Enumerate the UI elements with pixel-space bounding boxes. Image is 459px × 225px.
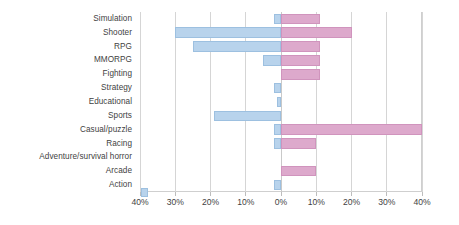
category-label: Sports (0, 111, 132, 121)
tick-mark (422, 192, 423, 196)
tick-mark (245, 192, 246, 196)
bar-right-mmorpg (281, 55, 320, 66)
bar-row (140, 26, 422, 40)
category-axis: SimulationShooterRPGMMORPGFightingStrate… (0, 12, 136, 192)
bar-right-fighting (281, 69, 320, 80)
tick-label: 10% (226, 197, 266, 208)
plot-area (140, 12, 422, 192)
bar-left-simulation (274, 14, 281, 25)
category-label: Racing (0, 139, 132, 149)
bar-row (140, 12, 422, 26)
bar-row (140, 109, 422, 123)
tick-label: 20% (191, 197, 231, 208)
x-axis: 40%30%20%10%0%10%20%30%40% (140, 192, 422, 214)
bar-left-casual-puzzle (274, 124, 281, 135)
tick-label: 40% (402, 197, 442, 208)
category-label: RPG (0, 42, 132, 52)
category-label: Arcade (0, 166, 132, 176)
bar-row (140, 67, 422, 81)
bar-row (140, 123, 422, 137)
bar-right-rpg (281, 41, 320, 52)
bar-left-racing (274, 138, 281, 149)
zero-axis-marker (141, 188, 148, 197)
category-label: Action (0, 180, 132, 190)
bar-row (140, 95, 422, 109)
bar-row (140, 54, 422, 68)
tick-label: 30% (367, 197, 407, 208)
category-label: Educational (0, 97, 132, 107)
bar-left-sports (214, 111, 281, 122)
bar-row (140, 40, 422, 54)
tick-mark (175, 192, 176, 196)
tick-label: 40% (120, 197, 160, 208)
bar-right-arcade (281, 166, 316, 177)
category-label: Adventure/survival horror (0, 152, 132, 162)
tick-mark (386, 192, 387, 196)
bar-row (140, 81, 422, 95)
bar-left-strategy (274, 83, 281, 94)
bar-row (140, 178, 422, 192)
bar-left-educational (277, 97, 281, 108)
category-label: Strategy (0, 83, 132, 93)
bar-right-racing (281, 138, 316, 149)
category-label: MMORPG (0, 55, 132, 65)
bar-left-rpg (193, 41, 281, 52)
tick-mark (210, 192, 211, 196)
category-label: Fighting (0, 69, 132, 79)
gaming-genre-diverging-bar-chart: SimulationShooterRPGMMORPGFightingStrate… (0, 0, 459, 225)
tick-label: 20% (332, 197, 372, 208)
tick-mark (281, 192, 282, 196)
category-label: Shooter (0, 28, 132, 38)
tick-mark (316, 192, 317, 196)
bar-left-mmorpg (263, 55, 281, 66)
bar-left-action (274, 180, 281, 191)
tick-label: 30% (155, 197, 195, 208)
bar-right-casual-puzzle (281, 124, 422, 135)
bar-row (140, 164, 422, 178)
bar-left-shooter (175, 27, 281, 38)
tick-label: 0% (261, 197, 301, 208)
category-label: Casual/puzzle (0, 125, 132, 135)
tick-mark (351, 192, 352, 196)
bar-row (140, 150, 422, 164)
bar-right-simulation (281, 14, 320, 25)
tick-label: 10% (296, 197, 336, 208)
bar-right-shooter (281, 27, 352, 38)
category-label: Simulation (0, 14, 132, 24)
bar-row (140, 137, 422, 151)
